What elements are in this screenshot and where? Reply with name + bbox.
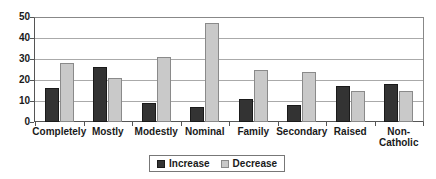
bar-decrease-4 <box>254 70 268 123</box>
y-tick-mark-0 <box>30 122 34 123</box>
legend-item-increase: Increase <box>157 159 210 169</box>
y-tick-label-40: 40 <box>4 33 30 43</box>
bar-decrease-3 <box>205 23 219 122</box>
bar-group <box>142 17 171 122</box>
y-tick-label-30: 30 <box>4 54 30 64</box>
legend-item-decrease: Decrease <box>221 159 277 169</box>
bar-decrease-7 <box>399 91 413 123</box>
x-axis-label-line: Catholic <box>367 137 432 148</box>
y-tick-mark-50 <box>30 17 34 18</box>
y-tick-label-10: 10 <box>4 96 30 106</box>
x-axis-label-7: Non-Catholic <box>367 126 432 148</box>
bar-increase-5 <box>287 105 301 122</box>
bar-decrease-2 <box>157 57 171 122</box>
bar-increase-6 <box>336 86 350 122</box>
bar-group <box>45 17 74 122</box>
bars-layer <box>35 17 423 122</box>
bar-group <box>384 17 413 122</box>
bar-increase-3 <box>190 107 204 122</box>
bar-group <box>336 17 365 122</box>
bar-group <box>93 17 122 122</box>
legend-swatch-decrease <box>221 160 229 168</box>
bar-decrease-1 <box>108 78 122 122</box>
y-tick-mark-40 <box>30 38 34 39</box>
y-tick-mark-20 <box>30 80 34 81</box>
x-axis-label-line: Non- <box>367 126 432 137</box>
y-tick-label-50: 50 <box>4 12 30 22</box>
y-tick-mark-30 <box>30 59 34 60</box>
bar-chart: 50 40 30 20 10 0 CompletelyMostlyModestl… <box>0 0 436 179</box>
bar-decrease-6 <box>351 91 365 123</box>
bar-group <box>190 17 219 122</box>
bar-group <box>287 17 316 122</box>
bar-increase-2 <box>142 103 156 122</box>
x-tick-end <box>423 122 424 126</box>
bar-increase-1 <box>93 67 107 122</box>
y-tick-mark-10 <box>30 101 34 102</box>
legend-swatch-increase <box>157 160 165 168</box>
bar-decrease-0 <box>60 63 74 122</box>
bar-increase-7 <box>384 84 398 122</box>
legend-label-increase: Increase <box>169 159 210 169</box>
legend-label-decrease: Decrease <box>233 159 277 169</box>
bar-decrease-5 <box>302 72 316 122</box>
bar-group <box>239 17 268 122</box>
chart-legend: Increase Decrease <box>149 155 285 172</box>
bar-increase-4 <box>239 99 253 122</box>
y-tick-label-20: 20 <box>4 75 30 85</box>
bar-increase-0 <box>45 88 59 122</box>
